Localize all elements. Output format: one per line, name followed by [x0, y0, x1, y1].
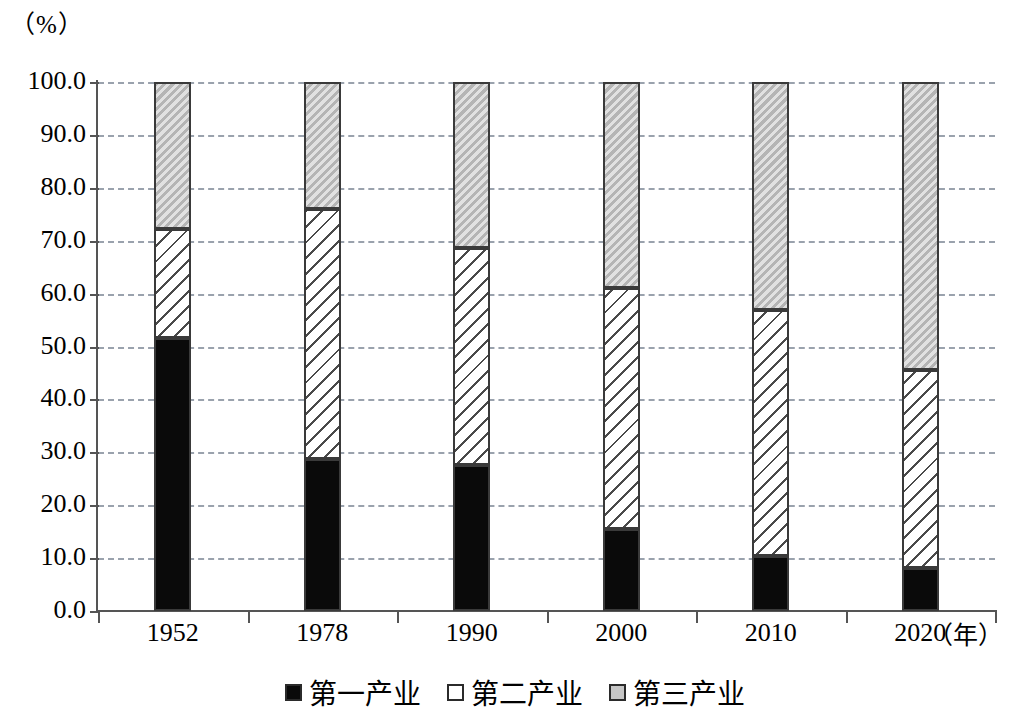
bar-segment-secondary-1990: [453, 248, 490, 465]
legend-label-tertiary: 第三产业: [633, 672, 745, 712]
bar-segment-tertiary-1978: [304, 82, 341, 209]
bar-segment-primary-1978: [304, 459, 341, 611]
chart-legend: 第一产业第二产业第三产业: [0, 672, 1030, 712]
y-axis-tick-label: 90.0: [0, 119, 86, 149]
bar-segment-primary-2010: [752, 556, 789, 611]
stacked-bar-chart: （%） 100.090.080.070.060.050.040.030.020.…: [0, 0, 1030, 719]
bar-segment-secondary-2000: [603, 288, 640, 529]
bar-segment-tertiary-2010: [752, 82, 789, 310]
bar-segment-secondary-2010: [752, 310, 789, 556]
x-axis-unit-label: （年）: [928, 615, 1003, 651]
bar-2010: [752, 82, 789, 611]
bar-segment-tertiary-2020: [902, 82, 939, 370]
y-axis-tick-label: 70.0: [0, 225, 86, 255]
x-axis-tick: [98, 612, 100, 623]
x-axis-tick-label-1952: 1952: [113, 618, 233, 648]
bar-segment-secondary-2020: [902, 370, 939, 568]
y-axis-tick-label: 20.0: [0, 489, 86, 519]
plot-area: [98, 82, 995, 611]
legend-swatch-secondary-icon: [447, 684, 464, 701]
x-axis-tick-label-1978: 1978: [262, 618, 382, 648]
y-axis-tick-label: 60.0: [0, 278, 86, 308]
x-axis-tick-label-1990: 1990: [412, 618, 532, 648]
bar-segment-secondary-1952: [154, 229, 191, 337]
y-axis-tick-label: 10.0: [0, 542, 86, 572]
legend-label-primary: 第一产业: [309, 672, 421, 712]
bar-segment-tertiary-1952: [154, 82, 191, 229]
x-axis-tick-label-2000: 2000: [561, 618, 681, 648]
bar-2020: [902, 82, 939, 611]
y-axis-tick-label: 0.0: [0, 595, 86, 625]
legend-label-secondary: 第二产业: [471, 672, 583, 712]
legend-swatch-tertiary-icon: [609, 684, 626, 701]
bar-segment-primary-2020: [902, 568, 939, 611]
x-axis-tick: [547, 612, 549, 623]
y-axis-tick-label: 40.0: [0, 383, 86, 413]
legend-swatch-primary-icon: [285, 684, 302, 701]
x-axis-tick: [397, 612, 399, 623]
bar-1990: [453, 82, 490, 611]
bar-2000: [603, 82, 640, 611]
bar-segment-secondary-1978: [304, 209, 341, 459]
legend-item-primary[interactable]: 第一产业: [285, 672, 421, 712]
bar-segment-tertiary-2000: [603, 82, 640, 288]
bar-1952: [154, 82, 191, 611]
x-axis-tick: [846, 612, 848, 623]
x-axis-tick-label-2010: 2010: [711, 618, 831, 648]
legend-item-tertiary[interactable]: 第三产业: [609, 672, 745, 712]
bar-segment-tertiary-1990: [453, 82, 490, 248]
legend-item-secondary[interactable]: 第二产业: [447, 672, 583, 712]
bar-segment-primary-2000: [603, 529, 640, 611]
x-axis-tick: [248, 612, 250, 623]
bar-segment-primary-1990: [453, 465, 490, 611]
bar-1978: [304, 82, 341, 611]
y-axis-unit-label: （%）: [10, 4, 84, 40]
y-axis-tick-label: 80.0: [0, 172, 86, 202]
y-axis-tick-label: 30.0: [0, 436, 86, 466]
y-axis-tick-label: 100.0: [0, 66, 86, 96]
y-axis-tick-label: 50.0: [0, 331, 86, 361]
bar-segment-primary-1952: [154, 338, 191, 611]
x-axis-tick: [696, 612, 698, 623]
